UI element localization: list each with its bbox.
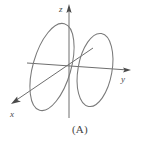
y-axis-label: y: [120, 74, 125, 84]
y-axis: y: [27, 63, 131, 84]
x-axis-label: x: [9, 109, 14, 119]
curve-ellipse-left: [21, 19, 82, 116]
z-axis: z: [58, 4, 72, 118]
z-axis-label: z: [58, 4, 63, 14]
figure-caption: (A): [0, 122, 160, 136]
figure-container: y z x (A): [0, 0, 160, 144]
curve-ellipse-right: [72, 31, 118, 110]
